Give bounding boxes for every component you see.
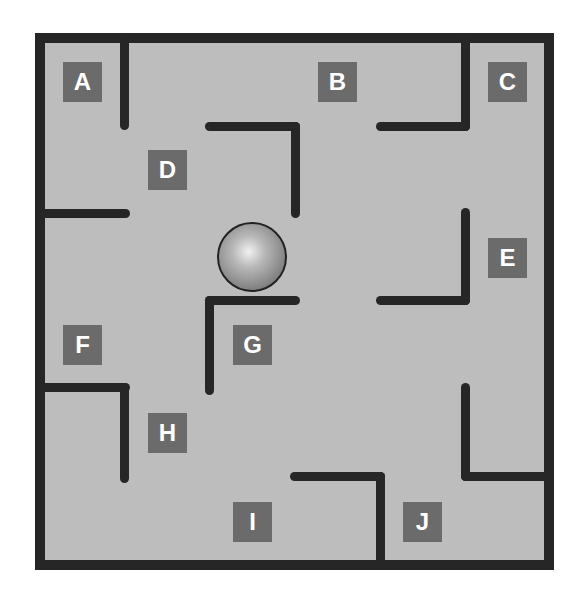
wall-h-top bbox=[40, 383, 130, 392]
room-label-h: H bbox=[148, 413, 187, 453]
wall-d-top bbox=[205, 122, 300, 131]
wall-h-right bbox=[120, 383, 129, 483]
border-left bbox=[35, 33, 45, 570]
room-label-a: A bbox=[63, 62, 102, 102]
room-label-d: D bbox=[148, 150, 187, 190]
room-label-b: B bbox=[318, 62, 357, 102]
room-label-j: J bbox=[403, 502, 442, 542]
room-label-f: F bbox=[63, 325, 102, 365]
room-label-g: G bbox=[233, 325, 272, 365]
wall-e-vertical bbox=[461, 208, 470, 305]
wall-b-c-vertical bbox=[461, 38, 470, 131]
wall-d-right bbox=[291, 122, 300, 218]
border-bottom bbox=[35, 560, 554, 570]
wall-g-top bbox=[205, 296, 300, 305]
sphere-ball-icon[interactable] bbox=[217, 222, 287, 292]
wall-i-j bbox=[376, 472, 385, 565]
wall-i-top bbox=[290, 472, 385, 481]
room-label-e: E bbox=[488, 238, 527, 278]
maze-board: A B C D E F G H I J bbox=[0, 0, 579, 597]
border-right bbox=[544, 33, 554, 570]
wall-e-horizontal bbox=[376, 296, 470, 305]
wall-j-vertical bbox=[461, 383, 470, 481]
wall-a-b bbox=[120, 38, 129, 130]
wall-g-left bbox=[205, 296, 214, 395]
wall-j-horizontal bbox=[461, 472, 550, 481]
wall-b-c-horizontal bbox=[376, 122, 470, 131]
room-label-i: I bbox=[233, 502, 272, 542]
wall-a-f bbox=[40, 209, 130, 218]
border-top bbox=[35, 33, 554, 43]
room-label-c: C bbox=[488, 62, 527, 102]
